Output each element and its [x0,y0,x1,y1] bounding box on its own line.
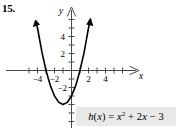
x-tick-label-2: 2 [86,74,91,84]
y-axis-label: y [58,5,64,16]
x-axis [6,67,139,75]
equation-callout-box: h(x) = x2 + 2x − 3 [76,107,176,126]
x-tick-label-4: 4 [103,74,108,84]
figure-container: 15. [0,0,176,129]
y-tick-label-2: 2 [61,49,66,59]
y-axis [68,7,76,128]
x-tick-label-neg4: −4 [33,74,43,84]
curve-right-arrow-icon [87,18,93,26]
y-tick-label-4: 4 [61,32,66,42]
equation-text: h(x) = x2 + 2x − 3 [88,111,164,122]
y-tick-label-neg2: −2 [57,83,67,93]
x-axis-label: x [138,70,144,81]
